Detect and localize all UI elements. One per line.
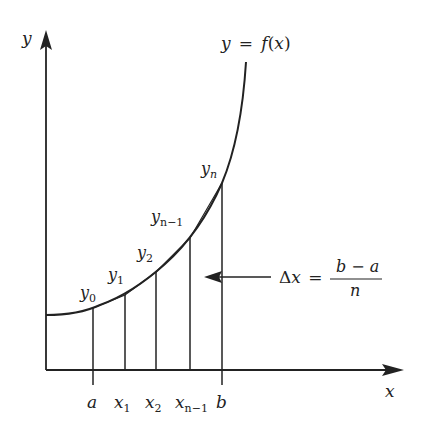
tick-x1: x1 bbox=[114, 392, 131, 415]
trapezoid-chords bbox=[93, 183, 222, 308]
y-axis bbox=[40, 30, 52, 370]
tick-x2: x2 bbox=[145, 392, 162, 415]
y-axis-label: y bbox=[21, 28, 32, 48]
curve-label: y = f(x) bbox=[220, 33, 291, 53]
label-y1: y1 bbox=[107, 265, 124, 287]
tick-b: b bbox=[216, 392, 227, 412]
delta-denominator: n bbox=[350, 281, 360, 300]
label-y2: y2 bbox=[136, 243, 153, 265]
trapezoid-rule-diagram: y x y = f(x) y0 y1 y2 yn−1 yn a bbox=[0, 0, 421, 431]
delta-x-lhs: Δx = bbox=[279, 267, 322, 287]
tick-a: a bbox=[87, 392, 97, 412]
label-y0: y0 bbox=[79, 283, 96, 305]
tick-xn-1: xn−1 bbox=[175, 392, 208, 415]
delta-numerator: b − a bbox=[336, 257, 379, 276]
delta-arrow bbox=[204, 271, 271, 283]
x-axis bbox=[46, 364, 404, 376]
label-yn-1: yn−1 bbox=[150, 207, 183, 229]
x-axis-label: x bbox=[385, 381, 395, 401]
label-yn: yn bbox=[200, 159, 217, 181]
